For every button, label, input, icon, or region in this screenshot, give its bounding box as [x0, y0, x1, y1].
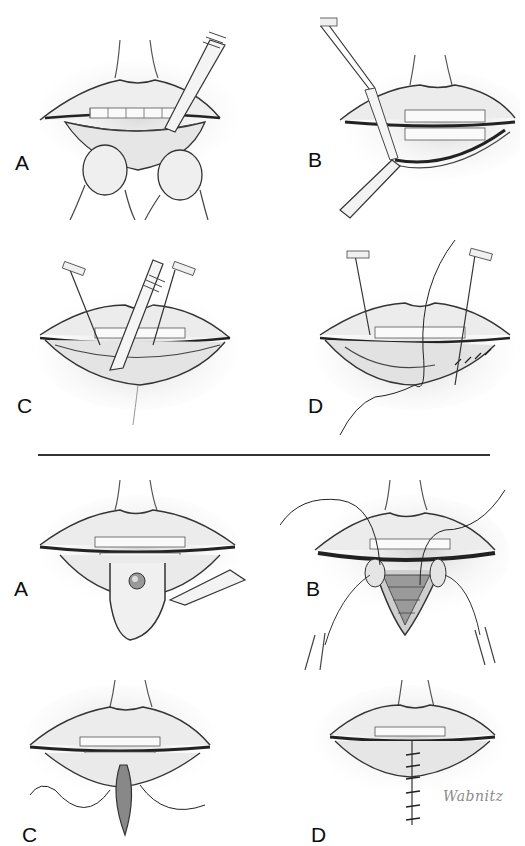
wedge-excision-closure-drawing	[280, 475, 510, 670]
panel-label-top-d: D	[308, 395, 323, 416]
wedge-approximation-drawing	[25, 675, 215, 845]
mucosal-undermining-drawing	[35, 250, 240, 425]
lip-eversion-incision-drawing	[20, 10, 255, 220]
illustration-bottom-b	[280, 475, 510, 670]
panel-label-bottom-d: D	[311, 824, 326, 845]
panel-label-top-a: A	[15, 152, 29, 173]
illustration-bottom-c	[25, 675, 215, 845]
illustration-top-c	[35, 250, 240, 425]
flap-advancement-suture-drawing	[315, 235, 515, 445]
illustration-top-a	[20, 10, 255, 220]
illustration-top-b	[320, 10, 520, 220]
panel-label-top-b: B	[308, 149, 322, 170]
panel-label-bottom-c: C	[22, 824, 37, 845]
lesion-wedge-outline-drawing	[35, 475, 250, 655]
illustration-bottom-a	[35, 475, 250, 655]
section-divider-line	[38, 454, 490, 456]
completed-closure-drawing	[310, 675, 510, 830]
panel-label-bottom-a: A	[14, 578, 28, 599]
mucosal-strip-excision-drawing	[320, 10, 520, 220]
artist-signature: Wabnitz	[443, 788, 503, 804]
illustration-top-d	[315, 235, 515, 445]
panel-label-bottom-b: B	[306, 578, 320, 599]
panel-label-top-c: C	[17, 395, 32, 416]
illustration-bottom-d	[310, 675, 510, 830]
